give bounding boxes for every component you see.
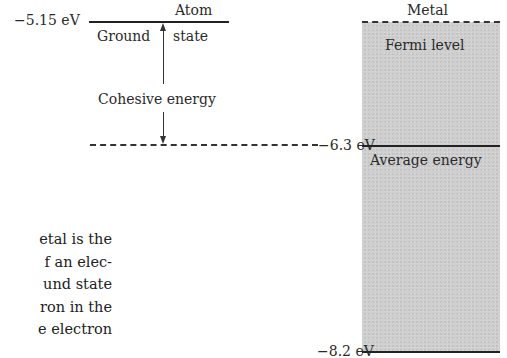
- atom-title: Atom: [175, 2, 212, 18]
- body-text-line: e electron: [0, 318, 112, 341]
- metal-title: Metal: [407, 2, 448, 18]
- body-text-line: ron in the: [0, 296, 112, 319]
- average-energy-line: [362, 145, 500, 147]
- cohesive-arrow-down-icon: [160, 136, 166, 144]
- atom-ground-state-energy: −5.15 eV: [14, 12, 80, 28]
- body-text-line: f an elec-: [0, 251, 112, 274]
- metal-energy-band: [362, 22, 500, 353]
- cohesive-arrow-shaft-bottom: [163, 112, 164, 136]
- fermi-level-label: Fermi level: [385, 37, 465, 53]
- average-energy-dashed-line: [90, 144, 318, 146]
- body-text-excerpt: etal is the f an elec- und state ron in …: [0, 228, 112, 341]
- fermi-level-dashed-line: [362, 21, 500, 23]
- body-text-line: etal is the: [0, 228, 112, 251]
- cohesive-arrow-shaft-top: [163, 30, 164, 84]
- ground-state-label-left: Ground: [97, 28, 150, 44]
- ground-state-label-right: state: [173, 28, 208, 44]
- atom-ground-state-line: [89, 21, 229, 23]
- band-bottom-line: [362, 351, 500, 353]
- average-energy-label: Average energy: [370, 152, 482, 168]
- body-text-line: und state: [0, 273, 112, 296]
- cohesive-energy-label: Cohesive energy: [98, 91, 216, 107]
